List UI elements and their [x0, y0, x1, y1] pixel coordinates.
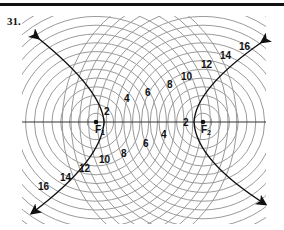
label-lower-4: 4 — [161, 129, 167, 140]
label-upper-4: 4 — [124, 93, 130, 104]
label-upper-8: 8 — [167, 79, 173, 90]
label-upper-12: 12 — [201, 59, 213, 70]
label-lower-14: 14 — [60, 172, 72, 183]
label-lower-2: 2 — [183, 117, 189, 128]
label-lower-8: 8 — [121, 148, 127, 159]
label-upper-10: 10 — [181, 71, 193, 82]
hyperbola-diagram: F1 F2 2 4 6 8 10 12 14 16 2 4 6 8 10 12 … — [0, 0, 284, 230]
concentric-circles — [0, 0, 284, 230]
label-upper-14: 14 — [220, 50, 232, 61]
label-lower-6: 6 — [143, 138, 149, 149]
label-upper-16: 16 — [239, 41, 251, 52]
label-lower-16: 16 — [38, 181, 50, 192]
focus-f2-label: F2 — [201, 124, 211, 136]
label-lower-10: 10 — [99, 154, 111, 165]
label-lower-12: 12 — [79, 163, 91, 174]
label-upper-2: 2 — [104, 106, 110, 117]
label-upper-6: 6 — [145, 87, 151, 98]
